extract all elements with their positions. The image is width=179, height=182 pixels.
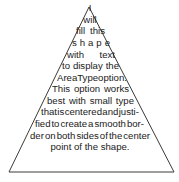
text-word: text (100, 49, 115, 60)
text-line: deronbothsidesofthecenter (30, 130, 150, 141)
text-line: I (87, 2, 93, 13)
text-word: Type (77, 72, 98, 83)
text-word: best (47, 95, 65, 106)
text-word: option (74, 83, 100, 94)
text-word: to (62, 60, 70, 71)
text-line: fillthis (76, 25, 105, 36)
text-word: the (109, 130, 122, 141)
text-word: with (69, 95, 86, 106)
text-line: Thisoptionworks (52, 83, 129, 94)
text-word: both (57, 130, 76, 141)
text-word: smooth (94, 118, 125, 129)
text-line: point of the shape. (60, 141, 120, 152)
text-word: fied (35, 118, 50, 129)
text-word: h (80, 37, 85, 48)
text-word: center (123, 130, 150, 141)
text-word: that (41, 106, 57, 117)
text-word: type (116, 95, 134, 106)
text-word: der (30, 130, 44, 141)
text-word: This (52, 83, 70, 94)
text-word: fill (76, 25, 85, 36)
text-word: the (106, 60, 119, 71)
text-word: option. (98, 72, 127, 83)
text-word: to (51, 118, 59, 129)
text-word: works (104, 83, 129, 94)
text-line: bestwithsmalltype (47, 95, 134, 106)
text-word: a (88, 118, 93, 129)
text-word: bor- (127, 118, 144, 129)
text-word: display (73, 60, 103, 71)
text-word: p (96, 37, 101, 48)
text-line: withtext (67, 49, 115, 60)
text-line: shape (72, 37, 110, 48)
text-word: justi- (119, 106, 139, 117)
text-word: small (90, 95, 112, 106)
text-line: thatiscenteredandjusti- (41, 106, 139, 117)
text-word: sides (76, 130, 98, 141)
text-line: todisplaythe (62, 60, 119, 71)
text-line: fiedtocreateasmoothbor- (35, 118, 144, 129)
text-word: a (88, 37, 93, 48)
text-word: centered (65, 106, 102, 117)
text-word: will (83, 14, 96, 25)
text-word: create (60, 118, 87, 129)
text-word: on (45, 130, 56, 141)
text-word: this (90, 25, 105, 36)
text-line: AreaTypeoption. (57, 72, 124, 83)
text-word: with (67, 49, 84, 60)
text-word: point of the shape. (51, 141, 130, 152)
text-word: Area (57, 72, 77, 83)
text-line: will (81, 14, 99, 25)
text-word: and (102, 106, 118, 117)
text-word: is (57, 106, 64, 117)
text-word: I (89, 2, 92, 13)
text-word: of (100, 130, 108, 141)
text-word: e (105, 37, 110, 48)
text-word: s (72, 37, 77, 48)
